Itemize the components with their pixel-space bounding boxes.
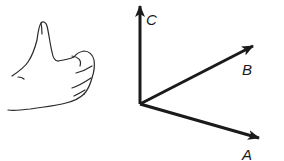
vector-a <box>140 104 259 138</box>
vector-b-label: B <box>242 61 252 78</box>
vector-c-label: C <box>146 11 157 28</box>
vector-b <box>140 46 253 104</box>
right-hand-rule-diagram: C B A <box>0 0 284 161</box>
vector-a-label: A <box>241 146 252 161</box>
thumbs-up-hand-icon <box>8 22 94 110</box>
